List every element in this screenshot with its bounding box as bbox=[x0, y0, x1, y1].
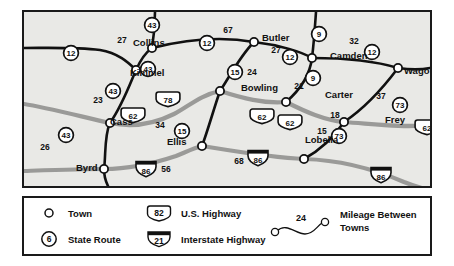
shield-number: 43 bbox=[148, 21, 157, 30]
mileage-label: 26 bbox=[40, 142, 50, 152]
road-byrd-ellis bbox=[24, 146, 202, 171]
town-label: Frey bbox=[385, 114, 406, 125]
state-shield-43: 43 bbox=[106, 84, 121, 99]
mileage-label: 68 bbox=[234, 156, 244, 166]
us-shield-78: 78 bbox=[156, 92, 180, 107]
town-label: Ellis bbox=[167, 136, 187, 147]
road-west-kimmel bbox=[24, 48, 136, 70]
town-dot-camden bbox=[308, 54, 316, 62]
state-shield-15: 15 bbox=[228, 65, 243, 80]
interstate-shield-top-band bbox=[248, 151, 268, 154]
mileage-endpoint-right-icon bbox=[321, 218, 328, 225]
state-shield-43: 43 bbox=[145, 18, 160, 33]
map-panel: 276727322421372338183415265668 431291212… bbox=[22, 10, 432, 188]
mileage-connector-icon bbox=[277, 223, 322, 234]
shield-number: 73 bbox=[396, 101, 405, 110]
interstate-shield-top-band bbox=[136, 162, 156, 165]
town-label: Kimmel bbox=[130, 67, 164, 78]
town-circle-icon bbox=[45, 209, 53, 217]
us-shield-62: 62 bbox=[415, 120, 430, 135]
state-shield-12: 12 bbox=[64, 46, 79, 61]
shield-number: 62 bbox=[258, 113, 267, 122]
mileage-label: 37 bbox=[376, 91, 386, 101]
state-shield-9: 9 bbox=[312, 27, 327, 42]
town-label: Carter bbox=[325, 89, 353, 100]
mileage-label: 18 bbox=[330, 110, 340, 120]
town-dot-ellis bbox=[198, 142, 206, 150]
town-label: Byrd bbox=[76, 162, 98, 173]
road-cass-byrd bbox=[104, 123, 110, 169]
mileage-label: 21 bbox=[294, 81, 304, 91]
legend-number-mileage: 24 bbox=[296, 213, 306, 223]
town-label: Collins bbox=[133, 37, 165, 48]
legend-item-interstate: 21 Interstate Highway bbox=[148, 232, 266, 247]
mileage-label: 27 bbox=[271, 45, 281, 55]
town-label: Bowling bbox=[241, 82, 278, 93]
state-shield-9: 9 bbox=[306, 71, 321, 86]
road-lobelia-southeast bbox=[304, 159, 430, 186]
state-shield-73: 73 bbox=[393, 98, 408, 113]
town-dot-wago bbox=[394, 64, 402, 72]
legend-panel: Town 6 State Route 82 U.S. Highway 21 In… bbox=[22, 196, 432, 256]
town-dot-bowling bbox=[216, 87, 224, 95]
shield-number: 86 bbox=[377, 173, 386, 182]
legend-canvas: Town 6 State Route 82 U.S. Highway 21 In… bbox=[24, 198, 430, 254]
legend-label-interstate: Interstate Highway bbox=[181, 234, 266, 245]
interstate-shield-86: 86 bbox=[136, 162, 156, 177]
legend-label-mileage-line1: Mileage Between bbox=[340, 209, 417, 220]
shield-number: 9 bbox=[317, 30, 322, 39]
black-roads bbox=[24, 12, 430, 186]
mileage-label: 34 bbox=[155, 120, 165, 130]
road-bowling-ellis bbox=[202, 91, 220, 146]
town-dot-byrd bbox=[100, 165, 108, 173]
mileage-label: 67 bbox=[223, 25, 233, 35]
shield-number: 12 bbox=[368, 48, 377, 57]
state-shield-43: 43 bbox=[59, 128, 74, 143]
interstate-shield-86: 86 bbox=[371, 168, 391, 183]
shield-number: 9 bbox=[311, 74, 316, 83]
legend-item-mileage: 24 Mileage Between Towns bbox=[271, 209, 416, 236]
shield-number: 12 bbox=[67, 49, 76, 58]
legend-item-us-highway: 82 U.S. Highway bbox=[148, 206, 242, 221]
state-shield-12: 12 bbox=[200, 36, 215, 51]
town-label: Lobelia bbox=[305, 134, 339, 145]
shield-number: 15 bbox=[231, 68, 240, 77]
interstate-shield-top-band bbox=[371, 168, 391, 171]
town-dot-frey bbox=[340, 118, 348, 126]
mileage-label: 23 bbox=[93, 95, 103, 105]
legend-item-town: Town bbox=[45, 208, 92, 219]
legend-number-interstate: 21 bbox=[154, 236, 164, 246]
shield-number: 12 bbox=[203, 39, 212, 48]
mileage-label: 32 bbox=[349, 36, 359, 46]
shield-number: 62 bbox=[286, 119, 295, 128]
legend-label-town: Town bbox=[68, 208, 92, 219]
state-shield-12: 12 bbox=[283, 50, 298, 65]
legend-label-state-route: State Route bbox=[68, 234, 121, 245]
shield-number: 43 bbox=[62, 131, 71, 140]
legend-label-mileage-line2: Towns bbox=[340, 222, 369, 233]
legend-item-state-route: 6 State Route bbox=[42, 232, 121, 246]
mileage-endpoint-left-icon bbox=[271, 228, 278, 235]
mileage-label: 24 bbox=[247, 67, 257, 77]
shield-number: 12 bbox=[286, 53, 295, 62]
us-shield-62: 62 bbox=[250, 109, 274, 124]
legend-label-us-highway: U.S. Highway bbox=[181, 208, 242, 219]
town-label: Wago bbox=[404, 65, 430, 76]
shield-number: 86 bbox=[142, 167, 151, 176]
legend-number-us-highway: 82 bbox=[154, 208, 164, 218]
shield-number: 43 bbox=[109, 87, 118, 96]
shield-number: 62 bbox=[423, 124, 430, 133]
town-dot-lobelia bbox=[300, 155, 308, 163]
town-label: Cass bbox=[110, 116, 133, 127]
town-dot-butler bbox=[250, 38, 258, 46]
town-label: Camden bbox=[330, 50, 368, 61]
us-shield-62: 62 bbox=[278, 115, 302, 130]
map-figure: 276727322421372338183415265668 431291212… bbox=[0, 0, 454, 266]
town-dot-carter bbox=[282, 98, 290, 106]
route-shields: 4312912121243159437315734378626262628686… bbox=[59, 18, 430, 183]
legend-number-state-route: 6 bbox=[47, 234, 52, 244]
town-label: Butler bbox=[262, 32, 290, 43]
shield-number: 78 bbox=[164, 96, 173, 105]
road-west-cass bbox=[24, 104, 110, 123]
shield-number: 15 bbox=[178, 127, 187, 136]
